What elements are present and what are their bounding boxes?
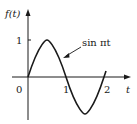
y-tick-label-1: 1 — [16, 35, 22, 46]
x-tick-label-1: 1 — [63, 84, 69, 95]
x-tick-label-2: 2 — [104, 84, 110, 95]
y-axis-label: f(t) — [4, 8, 21, 19]
x-axis-arrow-icon — [124, 75, 131, 80]
x-axis-label: t — [126, 84, 131, 95]
curve-label: sin πt — [82, 37, 111, 48]
pointer-arrow-icon — [63, 53, 70, 58]
y-axis-arrow-icon — [26, 9, 31, 16]
origin-label: 0 — [16, 84, 22, 95]
sine-diagram: f(t) t 1 0 1 2 sin πt — [0, 0, 137, 124]
